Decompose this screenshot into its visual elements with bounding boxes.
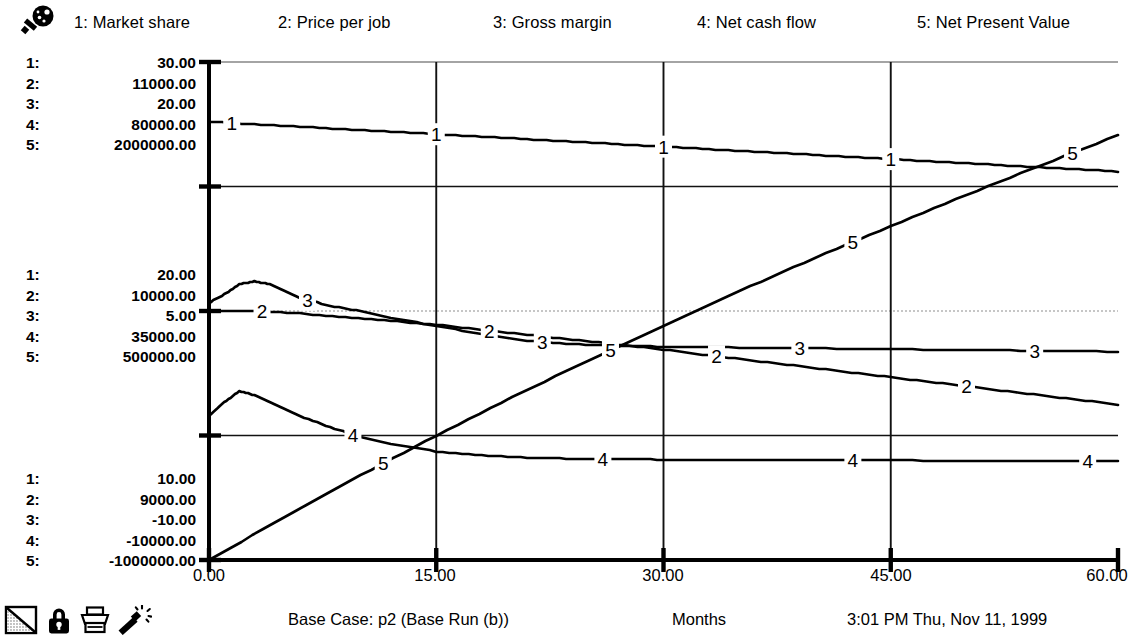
series-inline-markers: 11112222333344445555	[223, 112, 1096, 474]
svg-text:2: 2	[484, 321, 495, 342]
x-tick-label-15: 15.00	[390, 566, 480, 585]
svg-text:2: 2	[257, 301, 268, 322]
magic-wand-icon[interactable]	[116, 605, 152, 635]
x-tick-label-60: 60.00	[1062, 566, 1136, 585]
x-tick-label-0: 0.00	[164, 566, 254, 585]
svg-text:1: 1	[885, 149, 896, 170]
svg-text:4: 4	[598, 449, 609, 470]
svg-text:3: 3	[302, 290, 313, 311]
chart-canvas: 11112222333344445555	[0, 0, 1136, 600]
svg-text:3: 3	[795, 338, 806, 359]
svg-text:5: 5	[605, 340, 616, 361]
svg-text:2: 2	[961, 376, 972, 397]
svg-text:1: 1	[226, 113, 237, 134]
svg-text:5: 5	[1067, 143, 1078, 164]
svg-text:4: 4	[348, 425, 359, 446]
svg-text:2: 2	[711, 346, 722, 367]
svg-text:3: 3	[1029, 341, 1040, 362]
page-corner-icon[interactable]	[4, 605, 40, 635]
svg-text:5: 5	[848, 232, 859, 253]
run-label: Base Case: p2 (Base Run (b))	[288, 610, 509, 629]
svg-text:5: 5	[378, 453, 389, 474]
svg-text:1: 1	[658, 137, 669, 158]
x-tick-label-30: 30.00	[618, 566, 708, 585]
svg-text:1: 1	[431, 124, 442, 145]
svg-text:4: 4	[848, 450, 859, 471]
svg-text:4: 4	[1082, 451, 1093, 472]
x-axis-title: Months	[672, 610, 726, 629]
timestamp: 3:01 PM Thu, Nov 11, 1999	[847, 610, 1047, 629]
chart-plot-area[interactable]: 11112222333344445555 0.00 15.00 30.00 45…	[0, 0, 1136, 600]
x-tick-label-45: 45.00	[846, 566, 936, 585]
lock-icon[interactable]	[44, 605, 74, 635]
footer-bar: Base Case: p2 (Base Run (b)) Months 3:01…	[0, 600, 1136, 638]
printer-icon[interactable]	[78, 605, 112, 635]
svg-text:3: 3	[537, 332, 548, 353]
